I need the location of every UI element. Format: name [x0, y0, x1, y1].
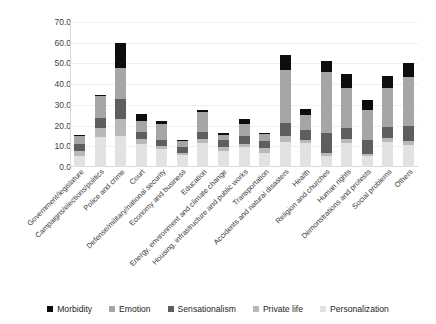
legend-item[interactable]: Sensationalism	[168, 304, 236, 314]
bar-column[interactable]	[362, 22, 373, 167]
bar-column[interactable]	[218, 22, 229, 167]
bar-segment-personalization	[259, 153, 270, 168]
legend-item[interactable]: Emotion	[109, 304, 151, 314]
bar-segment-emotion	[136, 121, 147, 131]
legend-swatch-icon	[320, 306, 326, 312]
y-axis-tick-label: 50.0	[11, 59, 71, 68]
bar-segment-morbidity	[321, 61, 332, 71]
y-axis-tick-label: 10.0	[11, 142, 71, 151]
y-axis-tick-label: 40.0	[11, 80, 71, 89]
bar-segment-emotion	[74, 136, 85, 144]
bar-segment-emotion	[403, 77, 414, 126]
bar-segment-sensationalism	[341, 128, 352, 139]
bar-column[interactable]	[321, 22, 332, 167]
bar-segment-personalization	[280, 142, 291, 167]
bar-segment-morbidity	[115, 43, 126, 68]
bar-segment-emotion	[300, 115, 311, 130]
bar-segment-morbidity	[136, 114, 147, 121]
bar-segment-sensationalism	[218, 140, 229, 147]
bar-segment-morbidity	[280, 55, 291, 70]
bar-column[interactable]	[403, 22, 414, 167]
chart-legend: MorbidityEmotionSensationalismPrivate li…	[0, 304, 436, 314]
bar-segment-sensationalism	[403, 126, 414, 142]
legend-swatch-icon	[253, 306, 259, 312]
legend-swatch-icon	[109, 306, 115, 312]
bar-segment-personalization	[403, 145, 414, 167]
y-axis-tick-label: 30.0	[11, 101, 71, 110]
legend-item[interactable]: Morbidity	[47, 304, 92, 314]
bar-segment-sensationalism	[321, 133, 332, 153]
bar-segment-emotion	[156, 124, 167, 141]
bar-segment-emotion	[321, 72, 332, 133]
bar-segment-sensationalism	[74, 144, 85, 151]
legend-label: Sensationalism	[178, 304, 236, 314]
legend-swatch-icon	[47, 306, 53, 312]
bar-segment-sensationalism	[300, 130, 311, 140]
bar-column[interactable]	[95, 22, 106, 167]
bar-segment-personalization	[177, 155, 188, 167]
bar-column[interactable]	[239, 22, 250, 167]
bar-segment-personalization	[341, 143, 352, 167]
bar-segment-personalization	[300, 143, 311, 167]
bar-column[interactable]	[280, 22, 291, 167]
bar-segment-sensationalism	[136, 132, 147, 139]
bar-column[interactable]	[382, 22, 393, 167]
bar-group	[70, 22, 418, 167]
bar-segment-personalization	[74, 156, 85, 167]
bar-segment-emotion	[382, 88, 393, 126]
y-axis-tick-label: 60.0	[11, 38, 71, 47]
legend-item[interactable]: Personalization	[320, 304, 389, 314]
bar-column[interactable]	[341, 22, 352, 167]
bar-segment-emotion	[95, 96, 106, 119]
stacked-bar-chart: 0.010.020.030.040.050.060.070.0 Governme…	[0, 0, 436, 324]
bar-segment-morbidity	[362, 100, 373, 110]
bar-segment-sensationalism	[115, 99, 126, 120]
bar-segment-private-life	[115, 119, 126, 136]
bar-column[interactable]	[156, 22, 167, 167]
y-axis-tick-label: 70.0	[11, 18, 71, 27]
bar-segment-sensationalism	[382, 127, 393, 138]
bar-segment-private-life	[95, 128, 106, 137]
bar-segment-personalization	[136, 144, 147, 167]
bar-segment-sensationalism	[95, 118, 106, 127]
legend-label: Private life	[263, 304, 303, 314]
bar-column[interactable]	[177, 22, 188, 167]
bar-segment-personalization	[218, 151, 229, 167]
bar-column[interactable]	[74, 22, 85, 167]
bar-segment-personalization	[197, 143, 208, 167]
bar-segment-emotion	[280, 70, 291, 123]
y-axis-tick-label: 20.0	[11, 121, 71, 130]
bar-column[interactable]	[136, 22, 147, 167]
bar-segment-personalization	[362, 156, 373, 167]
bar-segment-emotion	[115, 68, 126, 99]
bar-column[interactable]	[300, 22, 311, 167]
legend-label: Personalization	[330, 304, 389, 314]
bar-segment-emotion	[341, 88, 352, 127]
plot-area	[70, 22, 418, 167]
bar-segment-sensationalism	[362, 140, 373, 153]
bar-segment-sensationalism	[259, 141, 270, 148]
bar-segment-emotion	[362, 110, 373, 140]
legend-item[interactable]: Private life	[253, 304, 303, 314]
y-axis-tick-label: 0.0	[11, 163, 71, 172]
legend-label: Emotion	[119, 304, 151, 314]
bar-segment-sensationalism	[197, 132, 208, 139]
bar-segment-personalization	[156, 149, 167, 167]
bar-segment-morbidity	[403, 63, 414, 76]
bar-segment-morbidity	[341, 74, 352, 89]
bar-segment-emotion	[239, 124, 250, 136]
bar-segment-personalization	[382, 142, 393, 167]
bar-segment-emotion	[197, 112, 208, 132]
legend-swatch-icon	[168, 306, 174, 312]
bar-column[interactable]	[197, 22, 208, 167]
bar-segment-sensationalism	[239, 136, 250, 144]
bar-segment-personalization	[115, 136, 126, 167]
bar-segment-morbidity	[382, 76, 393, 88]
bar-segment-personalization	[321, 156, 332, 167]
bar-segment-personalization	[95, 137, 106, 167]
bar-segment-emotion	[259, 134, 270, 141]
bar-segment-personalization	[239, 147, 250, 167]
bar-column[interactable]	[115, 22, 126, 167]
bar-column[interactable]	[259, 22, 270, 167]
bar-segment-sensationalism	[280, 123, 291, 136]
